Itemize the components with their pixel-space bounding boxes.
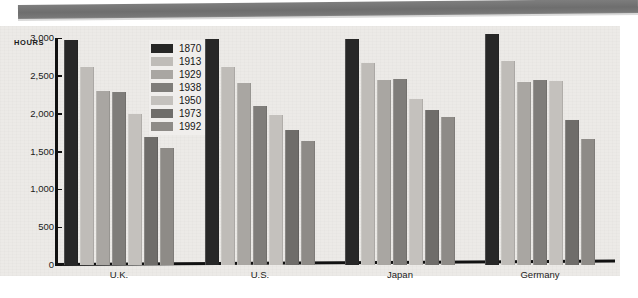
y-axis-tick-label: 500: [38, 222, 54, 232]
bar[interactable]: [517, 82, 531, 265]
bar[interactable]: [485, 34, 499, 265]
x-axis-label: Japan: [345, 269, 455, 280]
grouped-bar-chart: HOURS 3,0002,5002,0001,5001,0005000 U.K.…: [0, 26, 620, 276]
bar[interactable]: [221, 67, 235, 265]
bar[interactable]: [501, 61, 515, 265]
bar[interactable]: [565, 120, 579, 265]
legend-swatch-icon: [151, 96, 173, 105]
legend-item[interactable]: 1973: [151, 107, 201, 120]
legend-item[interactable]: 1913: [151, 55, 201, 68]
legend-swatch-icon: [151, 122, 173, 131]
bar[interactable]: [425, 110, 439, 265]
chart-legend: 1870191319291938195019731992: [149, 40, 205, 135]
bar-group: [345, 38, 455, 265]
bar[interactable]: [269, 115, 283, 265]
bar[interactable]: [345, 39, 359, 265]
bar[interactable]: [80, 67, 94, 265]
bar[interactable]: [285, 130, 299, 265]
y-axis-tick-label: 3,000: [30, 33, 54, 43]
y-axis-tick-label: 0: [49, 260, 54, 270]
legend-swatch-icon: [151, 83, 173, 92]
plot-area: [58, 38, 614, 265]
y-axis-tick-label: 2,000: [30, 109, 54, 119]
bar[interactable]: [301, 141, 315, 265]
legend-item[interactable]: 1938: [151, 81, 201, 94]
y-axis-tick-label: 1,500: [30, 147, 54, 157]
bar[interactable]: [253, 106, 267, 265]
bar[interactable]: [112, 92, 126, 265]
legend-item-label: 1973: [179, 107, 201, 120]
legend-item-label: 1938: [179, 81, 201, 94]
legend-item[interactable]: 1992: [151, 120, 201, 133]
legend-item-label: 1870: [179, 42, 201, 55]
bar[interactable]: [237, 83, 251, 265]
scanned-page: HOURS 3,0002,5002,0001,5001,0005000 U.K.…: [0, 0, 638, 298]
legend-item[interactable]: 1929: [151, 68, 201, 81]
legend-item-label: 1913: [179, 55, 201, 68]
bar[interactable]: [361, 63, 375, 265]
bar-group: [485, 38, 595, 265]
x-axis-label: U.S.: [205, 269, 315, 280]
y-axis-tick-label: 2,500: [30, 71, 54, 81]
bar[interactable]: [409, 99, 423, 265]
bar[interactable]: [64, 40, 78, 265]
bar[interactable]: [549, 81, 563, 265]
bar[interactable]: [144, 137, 158, 265]
legend-item-label: 1929: [179, 68, 201, 81]
legend-swatch-icon: [151, 70, 173, 79]
bar[interactable]: [393, 79, 407, 265]
bar[interactable]: [205, 39, 219, 265]
bar[interactable]: [128, 114, 142, 265]
legend-item[interactable]: 1870: [151, 42, 201, 55]
legend-swatch-icon: [151, 109, 173, 118]
bar[interactable]: [581, 139, 595, 265]
bar[interactable]: [96, 91, 110, 265]
y-axis-tick-label: 1,000: [30, 184, 54, 194]
x-axis-label: Germany: [485, 269, 595, 280]
bar[interactable]: [533, 80, 547, 265]
bar[interactable]: [377, 80, 391, 265]
bar-group: [205, 38, 315, 265]
x-axis-label: U.K.: [64, 269, 174, 280]
legend-item[interactable]: 1950: [151, 94, 201, 107]
legend-swatch-icon: [151, 57, 173, 66]
legend-swatch-icon: [151, 44, 173, 53]
bar[interactable]: [441, 117, 455, 265]
legend-item-label: 1950: [179, 94, 201, 107]
bar[interactable]: [160, 148, 174, 265]
legend-item-label: 1992: [179, 120, 201, 133]
